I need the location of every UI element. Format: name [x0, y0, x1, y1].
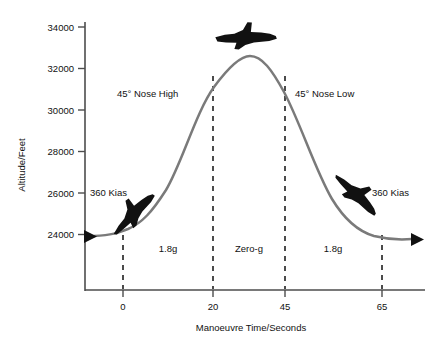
y-axis-title: Altitude/Feet	[16, 138, 27, 192]
annotation-nose-low: 45° Nose Low	[295, 88, 354, 99]
annotation-speed-left: 360 Kias	[90, 187, 127, 198]
y-tick-label: 34000	[48, 22, 74, 33]
x-tick-marks	[123, 290, 382, 297]
aircraft-level-icon	[215, 21, 277, 50]
x-tick-labels: 0 20 45 65	[120, 301, 387, 312]
y-tick-label: 24000	[48, 229, 74, 240]
annotation-g-right: 1.8g	[324, 243, 343, 254]
y-tick-marks	[78, 27, 85, 235]
y-tick-label: 32000	[48, 63, 74, 74]
y-tick-labels: 34000 32000 30000 28000 26000 24000	[48, 22, 74, 241]
annotation-nose-high: 45° Nose High	[117, 88, 178, 99]
axis-group	[78, 22, 425, 297]
x-axis-title: Manoeuvre Time/Seconds	[196, 322, 307, 333]
x-tick-label: 0	[120, 301, 125, 312]
arrowhead-right-icon-end	[411, 233, 424, 246]
y-tick-label: 30000	[48, 105, 74, 116]
x-tick-label: 20	[208, 301, 219, 312]
x-tick-label: 65	[377, 301, 388, 312]
parabolic-flight-chart: 34000 32000 30000 28000 26000 24000 0 20…	[0, 0, 435, 339]
annotation-speed-right: 360 Kias	[372, 187, 409, 198]
arrowhead-right-icon-start	[84, 230, 97, 243]
x-tick-label: 45	[280, 301, 291, 312]
y-tick-label: 26000	[48, 188, 74, 199]
annotation-g-left: 1.8g	[159, 243, 178, 254]
figure-canvas: 34000 32000 30000 28000 26000 24000 0 20…	[0, 0, 435, 339]
y-tick-label: 28000	[48, 146, 74, 157]
annotation-g-middle: Zero-g	[235, 243, 263, 254]
